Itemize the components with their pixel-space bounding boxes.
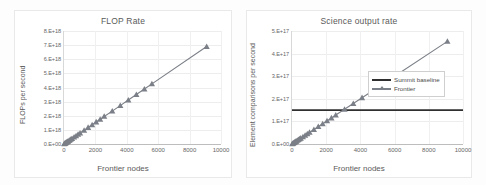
data-point-marker	[109, 108, 115, 114]
data-point-marker	[311, 126, 317, 132]
figure-canvas: FLOP Rate FLOPs per second 0.E+001.E+182…	[0, 0, 486, 185]
data-point-marker	[149, 81, 155, 87]
y-axis-tick: 5.E+17	[272, 28, 289, 34]
x-axis-tick: 6000	[388, 147, 401, 153]
y-axis-tick: 2.E+18	[44, 113, 61, 119]
legend-swatch-triangle-icon	[372, 85, 391, 92]
data-point-marker	[324, 118, 330, 124]
chart-flop-rate: FLOP Rate FLOPs per second 0.E+001.E+182…	[14, 10, 232, 178]
y-axis-tick: 4.E+17	[272, 51, 289, 57]
y-axis-tick: 3.E+17	[272, 73, 289, 79]
x-axis-tick: 0	[290, 147, 293, 153]
chart-title: Science output rate	[247, 16, 471, 26]
data-point-marker	[328, 115, 334, 121]
data-point-marker	[204, 43, 210, 49]
y-axis-tick: 0.E+00	[272, 141, 289, 147]
data-point-marker	[315, 124, 321, 130]
chart-legend: Summit baseline Frontier	[368, 71, 445, 97]
legend-label: Frontier	[394, 84, 415, 93]
data-point-marker	[333, 112, 339, 118]
x-axis-tick: 0	[62, 147, 65, 153]
data-point-marker	[125, 97, 131, 103]
data-point-marker	[101, 113, 107, 119]
y-axis-label: FLOPs per second	[19, 47, 26, 143]
data-point-marker	[320, 121, 326, 127]
gridline	[221, 31, 222, 144]
series-layer	[64, 31, 221, 144]
y-axis-tick: 0.E+00	[44, 141, 61, 147]
y-axis-tick: 7.E+18	[44, 42, 61, 48]
data-point-marker	[444, 38, 450, 44]
y-axis-label: Element comparisons per second	[249, 31, 256, 159]
x-axis-tick: 2000	[320, 147, 333, 153]
x-axis-tick: 10000	[213, 147, 230, 153]
y-axis-tick: 2.E+17	[272, 96, 289, 102]
x-axis-label: Frontier nodes	[247, 164, 471, 173]
legend-swatch-line-icon	[372, 76, 391, 83]
data-point-marker	[341, 106, 347, 112]
legend-item-frontier: Frontier	[372, 84, 440, 93]
y-axis-tick: 1.E+18	[44, 127, 61, 133]
y-axis-tick: 6.E+18	[44, 56, 61, 62]
chart-science-output-rate: Science output rate Element comparisons …	[246, 10, 472, 178]
x-axis-tick: 8000	[183, 147, 196, 153]
y-axis-tick: 4.E+18	[44, 85, 61, 91]
y-axis-tick: 1.E+17	[272, 118, 289, 124]
x-axis-tick: 8000	[422, 147, 435, 153]
x-axis-tick: 4000	[120, 147, 133, 153]
data-point-marker	[350, 100, 356, 106]
data-point-marker	[141, 86, 147, 92]
gridline	[463, 31, 464, 144]
chart-title: FLOP Rate	[15, 16, 231, 26]
x-axis-tick: 4000	[354, 147, 367, 153]
x-axis-tick: 10000	[455, 147, 472, 153]
data-point-marker	[117, 102, 123, 108]
legend-item-summit-baseline: Summit baseline	[372, 75, 440, 84]
plot-area: 0.E+001.E+182.E+183.E+184.E+185.E+186.E+…	[63, 31, 221, 145]
y-axis-tick: 8.E+18	[44, 28, 61, 34]
x-axis-tick: 2000	[89, 147, 102, 153]
x-axis-label: Frontier nodes	[15, 164, 231, 173]
x-axis-tick: 6000	[152, 147, 165, 153]
y-axis-tick: 3.E+18	[44, 99, 61, 105]
legend-label: Summit baseline	[394, 75, 440, 84]
data-point-marker	[359, 95, 365, 101]
data-point-marker	[133, 91, 139, 97]
y-axis-tick: 5.E+18	[44, 70, 61, 76]
